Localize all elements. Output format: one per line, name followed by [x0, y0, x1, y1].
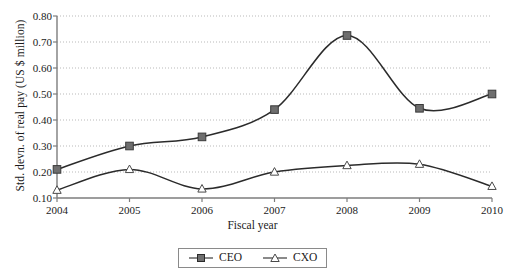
x-tick-label: 2004: [35, 204, 79, 216]
legend-label-ceo: CEO: [218, 251, 242, 264]
x-tick-label: 2008: [325, 204, 369, 216]
legend-marker-filled-square-icon: [188, 252, 214, 264]
x-tick-label: 2010: [470, 204, 505, 216]
x-tick-label: 2006: [180, 204, 224, 216]
x-axis-tick-labels: 2004200520062007200820092010: [0, 0, 505, 276]
legend-marker-open-triangle-icon: [262, 252, 288, 264]
legend-item-cxo[interactable]: CXO: [262, 251, 317, 264]
legend-item-ceo[interactable]: CEO: [188, 251, 242, 264]
legend-label-cxo: CXO: [292, 251, 317, 264]
chart-legend: CEO CXO: [178, 248, 327, 268]
x-tick-label: 2007: [253, 204, 297, 216]
x-tick-label: 2005: [108, 204, 152, 216]
chart-figure: Std. devn. of real pay (US $ million) 0.…: [0, 0, 505, 276]
x-axis-title: Fiscal year: [0, 218, 505, 232]
x-tick-label: 2009: [398, 204, 442, 216]
